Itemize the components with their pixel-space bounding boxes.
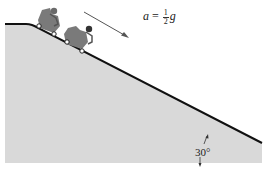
angle-label: 30° bbox=[195, 146, 210, 158]
fraction-denominator: 2 bbox=[163, 18, 169, 26]
acceleration-arrow-icon bbox=[84, 12, 129, 38]
acceleration-label: a = 1 2 g bbox=[143, 9, 176, 26]
equals-sign: = bbox=[152, 9, 159, 23]
diagram-canvas bbox=[0, 0, 268, 178]
gravity-symbol: g bbox=[170, 9, 176, 23]
incline-surface bbox=[5, 24, 262, 163]
acceleration-variable: a bbox=[143, 9, 149, 23]
incline-diagram: a = 1 2 g 30° bbox=[0, 0, 268, 178]
fraction: 1 2 bbox=[163, 9, 169, 26]
